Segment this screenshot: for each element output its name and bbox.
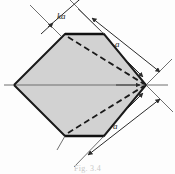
dimension-label-a-bottom: a bbox=[113, 122, 118, 131]
extension-line-a-top-lower bbox=[146, 59, 172, 85]
figure-caption: Fig. 3.4 bbox=[0, 164, 175, 174]
dimension-ka bbox=[41, 0, 93, 34]
figure-container: ka a a Fig. 3.4 bbox=[0, 0, 175, 174]
extension-line-a-top-upper bbox=[78, 9, 104, 34]
dimension-label-ka: ka bbox=[57, 12, 66, 21]
extension-line-bottom-edge bbox=[57, 136, 65, 150]
dimension-label-a-top: a bbox=[115, 40, 120, 49]
extension-line-ka-left bbox=[30, 5, 62, 37]
dimension-line-ka bbox=[48, 0, 86, 27]
extension-line-a-bottom-lower bbox=[74, 136, 104, 167]
diamond-cross-section-diagram bbox=[0, 0, 175, 174]
arrow-ka-left bbox=[41, 23, 53, 34]
extension-line-a-bottom-upper bbox=[146, 85, 173, 112]
